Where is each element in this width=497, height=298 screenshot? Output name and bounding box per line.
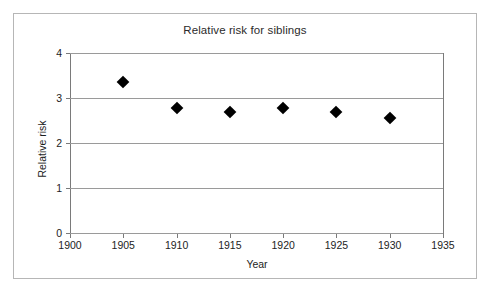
data-point [170, 102, 183, 115]
x-tick-label: 1920 [253, 239, 313, 251]
y-tick-label: 2 [22, 137, 62, 149]
gridline-y [70, 188, 443, 189]
x-tick [336, 234, 337, 238]
x-tick-label: 1925 [306, 239, 366, 251]
gridline-y [70, 143, 443, 144]
x-tick [70, 234, 71, 238]
data-point [277, 102, 290, 115]
x-tick-label: 1910 [147, 239, 207, 251]
chart-title: Relative risk for siblings [13, 24, 477, 36]
y-tick [66, 98, 70, 99]
data-point [383, 112, 396, 125]
x-tick-label: 1935 [413, 239, 473, 251]
x-tick-label: 1900 [40, 239, 100, 251]
x-tick [443, 234, 444, 238]
data-point [330, 106, 343, 119]
y-tick-label: 3 [22, 92, 62, 104]
y-tick [66, 53, 70, 54]
y-tick [66, 188, 70, 189]
plot-area [70, 53, 443, 233]
x-tick [283, 234, 284, 238]
x-tick [390, 234, 391, 238]
x-axis-title: Year [70, 258, 444, 270]
gridline-y [70, 233, 443, 234]
chart-figure: Relative risk for siblings Relative risk… [0, 0, 497, 298]
x-tick-label: 1930 [360, 239, 420, 251]
data-point [117, 76, 130, 89]
data-point [223, 106, 236, 119]
x-tick-label: 1905 [93, 239, 153, 251]
y-tick-label: 4 [22, 47, 62, 59]
x-tick [123, 234, 124, 238]
y-tick-label: 0 [22, 227, 62, 239]
y-tick-label: 1 [22, 182, 62, 194]
gridline-y [70, 98, 443, 99]
gridline-y [70, 53, 443, 54]
plot-frame-right [443, 53, 444, 234]
y-tick [66, 143, 70, 144]
x-tick [177, 234, 178, 238]
x-tick-label: 1915 [200, 239, 260, 251]
x-tick [230, 234, 231, 238]
